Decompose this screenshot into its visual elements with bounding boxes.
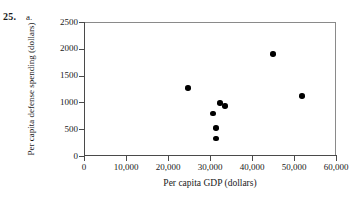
x-tick-label: 40,000 — [240, 163, 265, 172]
x-tick — [168, 156, 169, 161]
y-tick — [79, 49, 84, 50]
y-tick-label: 1000 — [60, 98, 78, 107]
y-tick — [79, 102, 84, 103]
problem-number: 25. — [3, 11, 16, 22]
x-tick-label: 0 — [82, 163, 87, 172]
x-axis-title: Per capita GDP (dollars) — [84, 178, 336, 188]
x-tick-label: 10,000 — [114, 163, 139, 172]
y-tick — [79, 22, 84, 23]
y-axis-line — [84, 22, 85, 156]
x-tick — [210, 156, 211, 161]
x-tick — [126, 156, 127, 161]
data-point — [213, 136, 219, 142]
x-tick-label: 20,000 — [156, 163, 181, 172]
y-tick-label: 0 — [74, 152, 79, 161]
y-tick-label: 2500 — [60, 18, 78, 27]
data-point — [222, 103, 228, 109]
data-point — [210, 111, 216, 117]
data-point — [299, 93, 305, 99]
plot-area — [84, 22, 336, 156]
x-tick — [252, 156, 253, 161]
data-point — [270, 51, 276, 57]
y-tick — [79, 129, 84, 130]
x-tick — [294, 156, 295, 161]
x-tick-label: 50,000 — [282, 163, 307, 172]
y-tick-label: 2000 — [60, 44, 78, 53]
data-point — [185, 85, 191, 91]
y-tick-label: 1500 — [60, 71, 78, 80]
x-tick — [84, 156, 85, 161]
y-tick-label: 500 — [65, 125, 79, 134]
y-axis-title: Per capita defense spending (dollars) — [26, 14, 36, 164]
x-tick-label: 60,000 — [324, 163, 349, 172]
x-tick-label: 30,000 — [198, 163, 223, 172]
y-tick — [79, 76, 84, 77]
x-tick — [336, 156, 337, 161]
data-point — [213, 125, 219, 131]
scatter-plot-figure: 25. a. 05001000150020002500 010,00020,00… — [0, 0, 357, 205]
